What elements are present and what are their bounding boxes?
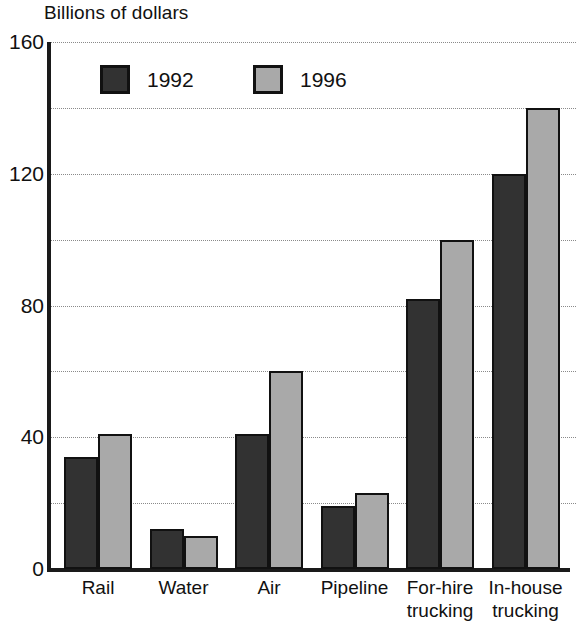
bars-layer [51, 42, 576, 569]
bar-in-house-trucking-1996 [526, 108, 560, 569]
x-axis-label-in-house-trucking: In-house trucking [466, 576, 583, 622]
chart-title: Billions of dollars [44, 2, 188, 24]
x-axis-category-labels: RailWaterAirPipelineFor-hire truckingIn-… [51, 576, 576, 640]
legend-swatch-1996 [253, 65, 283, 94]
plot-area [47, 42, 576, 569]
bar-in-house-trucking-1992 [492, 174, 526, 569]
bar-air-1996 [269, 371, 303, 569]
bar-air-1992 [235, 434, 269, 569]
y-axis-tick-labels: 04080120160 [0, 42, 44, 569]
y-axis-tick-label: 120 [0, 163, 44, 184]
legend-item-1992: 1992 [100, 62, 194, 96]
legend-label-1996: 1996 [300, 69, 347, 90]
bar-chart: Billions of dollars 04080120160 RailWate… [0, 0, 583, 643]
legend-label-1992: 1992 [147, 69, 194, 90]
bar-pipeline-1992 [321, 506, 355, 569]
bar-rail-1992 [64, 457, 98, 569]
bar-pipeline-1996 [355, 493, 389, 569]
bar-for-hire-trucking-1996 [440, 240, 474, 569]
y-axis-tick-label: 40 [0, 426, 44, 447]
y-axis-tick-label: 80 [0, 295, 44, 316]
legend-item-1996: 1996 [253, 62, 347, 96]
y-axis-tick-label: 160 [0, 31, 44, 52]
bar-water-1996 [184, 536, 218, 569]
bar-water-1992 [150, 529, 184, 569]
bar-rail-1996 [98, 434, 132, 569]
legend-swatch-1992 [100, 65, 130, 94]
bar-for-hire-trucking-1992 [406, 299, 440, 569]
